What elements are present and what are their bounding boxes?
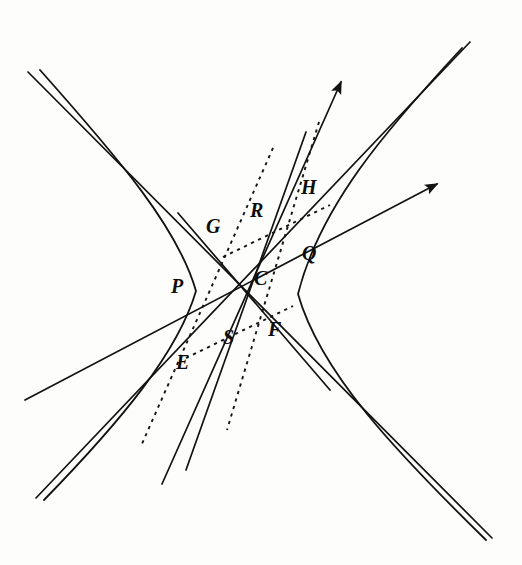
line-G-C-F: [178, 213, 330, 390]
dashed-diameter-R-S: [227, 122, 319, 430]
line-through-C-to-R: [186, 132, 306, 470]
point-label-E: E: [176, 352, 189, 372]
asymptote-sw-ne-line: [36, 42, 470, 498]
point-label-C: C: [254, 268, 267, 288]
asymptote-nw-se-line: [28, 72, 492, 538]
point-label-G: G: [206, 216, 220, 236]
point-label-Q: Q: [302, 243, 316, 263]
line-P-C-Q: [25, 184, 437, 400]
point-label-P: P: [171, 276, 183, 296]
point-label-H: H: [301, 177, 317, 197]
hyperbola-diagram: G R H Q P C F S E: [0, 0, 522, 565]
point-label-F: F: [268, 319, 281, 339]
point-label-S: S: [223, 327, 234, 347]
point-label-R: R: [250, 200, 263, 220]
hyperbola-right-branch: [298, 48, 486, 540]
